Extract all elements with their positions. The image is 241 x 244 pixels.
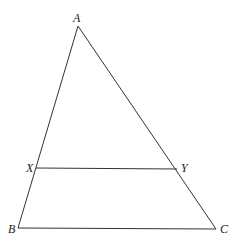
label-y: Y xyxy=(181,161,189,175)
segment-bc xyxy=(18,228,216,229)
label-a: A xyxy=(72,11,81,25)
label-x: X xyxy=(25,161,34,175)
segment-ab xyxy=(18,26,78,228)
label-c: C xyxy=(220,222,229,236)
triangle-diagram: A B C X Y xyxy=(0,0,241,244)
segment-xy xyxy=(36,168,177,169)
label-b: B xyxy=(8,222,16,236)
segment-ac xyxy=(78,26,216,229)
